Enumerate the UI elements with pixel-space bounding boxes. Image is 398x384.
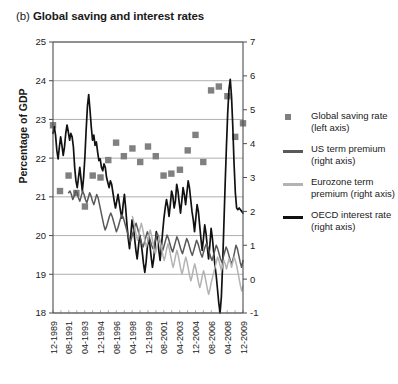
svg-text:08-1996: 08-1996 (112, 321, 122, 354)
svg-text:5: 5 (250, 104, 255, 115)
legend-label-global-saving-rate: Global saving rate (left axis) (311, 110, 398, 133)
svg-text:-1: -1 (250, 307, 258, 318)
line-swatch-icon (283, 179, 305, 189)
svg-text:7: 7 (250, 36, 255, 47)
svg-text:21: 21 (35, 191, 46, 202)
chart-legend: Global saving rate (left axis) US term p… (283, 110, 398, 242)
svg-text:04-2008: 04-2008 (223, 321, 233, 354)
legend-item-global-saving-rate: Global saving rate (left axis) (283, 110, 398, 134)
legend-line2: premium (right axis) (311, 188, 395, 199)
legend-label-us-term-premium: US term premium (right axis) (311, 143, 398, 166)
svg-text:0: 0 (250, 274, 255, 285)
legend-line1: US term premium (311, 143, 385, 154)
svg-text:08-1991: 08-1991 (64, 321, 74, 354)
legend-line1: OECD interest rate (311, 209, 391, 220)
legend-item-us-term-premium: US term premium (right axis) (283, 143, 398, 167)
square-marker-icon (283, 113, 305, 123)
svg-text:12-2004: 12-2004 (191, 321, 201, 354)
figure-panel: (b) Global saving and interest rates Per… (0, 0, 398, 384)
svg-text:12-1989: 12-1989 (49, 321, 59, 354)
y-axis-left-ticks: 2524232221201918 (35, 36, 53, 318)
svg-text:23: 23 (35, 114, 46, 125)
svg-text:19: 19 (35, 269, 46, 280)
legend-line2: (right axis) (311, 221, 355, 232)
svg-text:04-2003: 04-2003 (175, 321, 185, 354)
svg-text:4: 4 (250, 138, 255, 149)
legend-line2: (left axis) (311, 122, 350, 133)
svg-text:04-1993: 04-1993 (80, 321, 90, 354)
svg-text:6: 6 (250, 70, 255, 81)
svg-text:18: 18 (35, 307, 46, 318)
svg-text:24: 24 (35, 75, 46, 86)
svg-text:04-1998: 04-1998 (128, 321, 138, 354)
legend-label-eurozone-term-premium: Eurozone term premium (right axis) (311, 176, 398, 199)
svg-text:25: 25 (35, 36, 46, 47)
x-axis-tick-labels: 12-198908-199104-199312-199408-199604-19… (49, 321, 249, 354)
svg-text:12-1999: 12-1999 (144, 321, 154, 354)
legend-item-oecd-interest-rate: OECD interest rate (right axis) (283, 209, 398, 233)
svg-text:12-1994: 12-1994 (96, 321, 106, 354)
legend-line2: (right axis) (311, 155, 355, 166)
svg-text:1: 1 (250, 240, 255, 251)
legend-line1: Eurozone term (311, 176, 373, 187)
data-series (50, 79, 246, 313)
y-axis-right-ticks: 76543210-1 (243, 36, 258, 318)
svg-text:3: 3 (250, 172, 255, 183)
line-swatch-icon (283, 146, 305, 156)
svg-text:2: 2 (250, 206, 255, 217)
legend-item-eurozone-term-premium: Eurozone term premium (right axis) (283, 176, 398, 200)
svg-text:08-2006: 08-2006 (207, 321, 217, 354)
svg-text:22: 22 (35, 153, 46, 164)
legend-label-oecd-interest-rate: OECD interest rate (right axis) (311, 209, 398, 232)
legend-line1: Global saving rate (311, 110, 388, 121)
svg-text:08-2001: 08-2001 (159, 321, 169, 354)
line-swatch-icon (283, 212, 305, 222)
svg-text:20: 20 (35, 230, 46, 241)
svg-text:12-2009: 12-2009 (239, 321, 249, 354)
